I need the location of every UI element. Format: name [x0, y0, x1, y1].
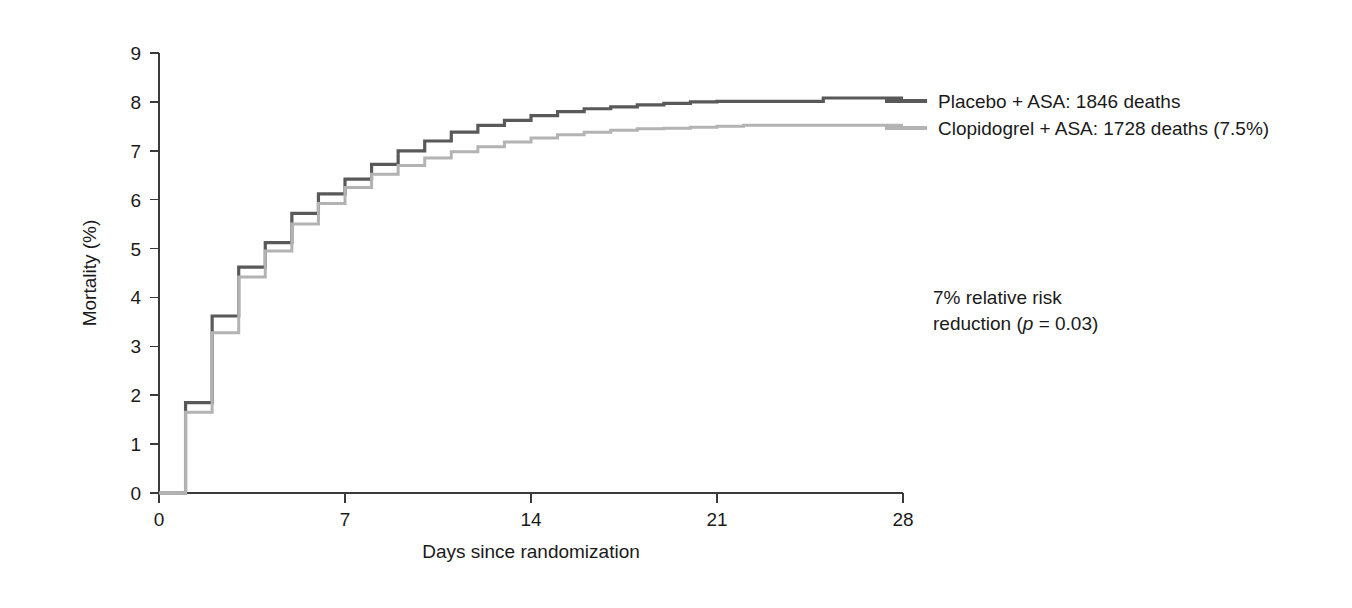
y-tick-label: 8 [130, 92, 141, 113]
legend-label-1: Placebo + ASA: 1846 deaths [938, 91, 1180, 112]
chart-canvas: 0123456789 07142128 Mortality (%) Days s… [0, 0, 1352, 608]
x-axis: 07142128 [154, 493, 914, 530]
y-axis-ticks: 0123456789 [130, 43, 159, 504]
series-group [159, 98, 903, 493]
x-axis-title: Days since randomization [422, 541, 640, 562]
mortality-kaplan-meier-figure: 0123456789 07142128 Mortality (%) Days s… [0, 0, 1352, 608]
y-tick-label: 7 [130, 141, 141, 162]
annotation-p-italic: p [1022, 313, 1034, 334]
x-tick-label: 7 [340, 509, 351, 530]
y-tick-label: 6 [130, 190, 141, 211]
x-tick-label: 28 [892, 509, 913, 530]
series-line-2 [159, 125, 903, 493]
legend-label-2: Clopidogrel + ASA: 1728 deaths (7.5%) [938, 118, 1269, 139]
chart-legend: Placebo + ASA: 1846 deathsClopidogrel + … [885, 91, 1269, 139]
annotation-prefix: reduction ( [933, 313, 1023, 334]
annotation-line-2: reduction (p = 0.03) [933, 313, 1098, 334]
x-axis-ticks: 07142128 [154, 493, 914, 530]
y-axis: 0123456789 [130, 43, 159, 504]
series-line-1 [159, 98, 903, 493]
y-tick-label: 0 [130, 483, 141, 504]
relative-risk-annotation: 7% relative risk reduction (p = 0.03) [933, 287, 1098, 334]
x-tick-label: 21 [706, 509, 727, 530]
annotation-suffix: = 0.03) [1033, 313, 1098, 334]
y-tick-label: 5 [130, 239, 141, 260]
x-tick-label: 0 [154, 509, 165, 530]
y-tick-label: 1 [130, 434, 141, 455]
annotation-line-1: 7% relative risk [933, 287, 1062, 308]
y-tick-label: 2 [130, 385, 141, 406]
y-axis-title: Mortality (%) [79, 220, 100, 327]
x-tick-label: 14 [520, 509, 542, 530]
y-tick-label: 9 [130, 43, 141, 64]
y-tick-label: 4 [130, 287, 141, 308]
y-tick-label: 3 [130, 336, 141, 357]
